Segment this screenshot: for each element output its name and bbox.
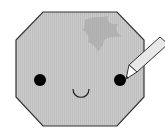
right-eye bbox=[114, 74, 126, 86]
octagon-face bbox=[16, 12, 144, 126]
left-eye bbox=[34, 74, 46, 86]
octagon-face-illustration bbox=[0, 0, 165, 137]
